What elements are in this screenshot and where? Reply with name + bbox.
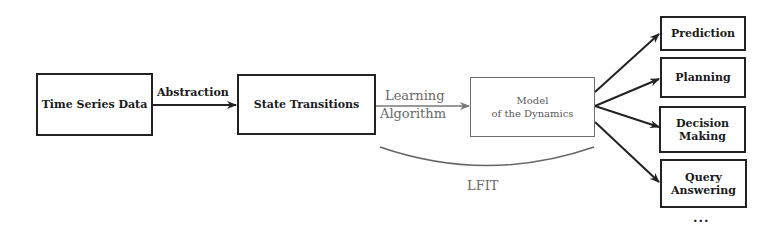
query-answering-line1: Query <box>685 171 722 184</box>
abstraction-label: Abstraction <box>157 86 229 99</box>
time-series-data-node: Time Series Data <box>36 73 153 136</box>
decision-making-line2: Making <box>679 130 726 143</box>
query-answering-node: Query Answering <box>660 159 747 208</box>
more-ellipsis: ... <box>693 210 710 225</box>
planning-label: Planning <box>675 71 730 84</box>
learning-label: Learning <box>385 88 445 104</box>
time-series-data-label: Time Series Data <box>42 98 148 111</box>
state-transitions-label: State Transitions <box>254 98 360 111</box>
model-label-line1: Model <box>517 94 549 107</box>
algorithm-label: Algorithm <box>380 106 446 122</box>
model-label-line2: of the Dynamics <box>492 107 574 120</box>
prediction-label: Prediction <box>671 27 735 40</box>
decision-making-line1: Decision <box>676 117 729 130</box>
planning-node: Planning <box>660 57 746 98</box>
decision-making-node: Decision Making <box>659 106 746 153</box>
model-of-dynamics-node: Model of the Dynamics <box>470 77 595 137</box>
prediction-node: Prediction <box>660 16 746 51</box>
state-transitions-node: State Transitions <box>237 74 376 135</box>
lfit-bracket <box>380 147 594 166</box>
query-answering-line2: Answering <box>671 184 736 197</box>
lfit-label: LFIT <box>467 178 498 194</box>
